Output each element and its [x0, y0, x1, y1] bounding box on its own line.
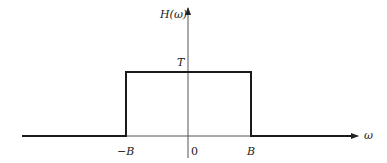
level-label-t: T	[177, 56, 186, 69]
x-axis-label: ω	[364, 129, 373, 142]
tick-label-neg-b: −B	[117, 145, 134, 158]
response-curve	[22, 72, 352, 136]
tick-label-zero: 0	[191, 145, 198, 158]
frequency-response-plot: H(ω) ω T −B 0 B	[0, 0, 387, 163]
tick-label-pos-b: B	[246, 145, 255, 158]
y-axis-label: H(ω)	[159, 8, 187, 21]
